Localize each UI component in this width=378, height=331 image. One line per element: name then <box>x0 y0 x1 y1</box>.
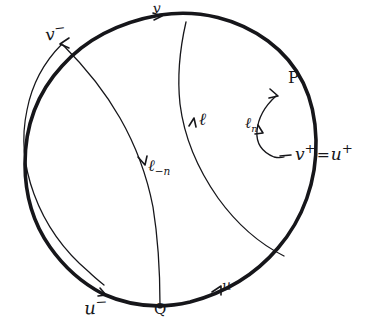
label-ell-minus-n-sub: −n <box>155 165 171 177</box>
geodesic-ell-n <box>257 96 284 158</box>
geodesic-ell-minus-n <box>63 45 160 305</box>
label-v-top-base: v <box>152 0 161 16</box>
label-ell-n: ℓn <box>245 116 258 134</box>
geodesic-ell-arrowhead <box>189 118 196 127</box>
label-v-top: v <box>153 1 162 16</box>
label-ell-base: ℓ <box>199 109 206 129</box>
label-u: u <box>221 277 232 292</box>
label-ell: ℓ <box>199 111 206 128</box>
label-u-plus-base: u <box>331 144 342 164</box>
disk-boundary-thick-arc <box>25 13 316 305</box>
label-u-plus-sup: + <box>342 141 353 156</box>
label-equals-sign: = <box>316 145 331 164</box>
label-P-base: P <box>288 68 299 87</box>
label-Q-base: Q <box>154 300 166 318</box>
label-ell-n-sub: n <box>251 123 257 134</box>
geodesic-ell <box>179 22 284 256</box>
label-u-minus: u− <box>83 294 107 317</box>
label-P: P <box>288 70 299 86</box>
hyperbolic-disk-diagram: .ink { fill: none; stroke: #16161a; stro… <box>0 0 378 331</box>
label-Q: Q <box>154 302 166 317</box>
label-u-minus-sup: − <box>95 293 108 310</box>
label-v-plus-base: v <box>295 144 305 164</box>
marker-tick-v-plus <box>280 155 291 156</box>
marker-arrowhead-P <box>269 89 278 98</box>
label-ell-minus-n: ℓ−n <box>148 158 170 177</box>
label-v-plus-equals-u-plus: v+=u+ <box>295 142 353 163</box>
disk-boundary-thin-arc <box>24 44 104 285</box>
label-v-minus-sup: − <box>53 20 66 36</box>
label-ell-minus-n-base: ℓ <box>148 156 155 175</box>
label-v-minus: v− <box>44 21 67 44</box>
label-v-plus-sup: + <box>305 141 316 156</box>
